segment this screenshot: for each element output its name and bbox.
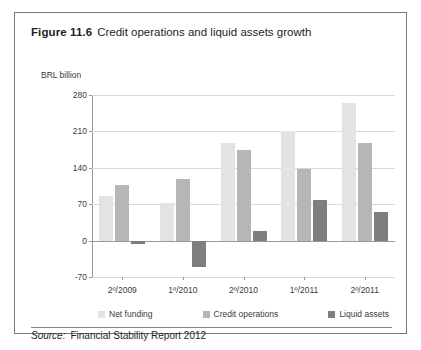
bar [131,241,145,244]
bar [374,212,388,241]
legend-item[interactable]: Net funding [98,309,152,319]
bar [237,150,251,241]
source-prefix: Source: [31,330,65,341]
y-axis-tick-label: 140 [73,163,87,173]
bar [221,143,235,241]
bar [358,143,372,240]
legend-swatch-icon [203,311,210,318]
x-axis-tick-marks [92,277,395,281]
bar [160,203,174,241]
x-axis-tick-mark [244,277,245,280]
figure-number: Figure 11.6 [31,26,92,38]
y-axis-tick-label: 0 [82,236,87,246]
source-line: Source:Financial Stability Report 2012 [31,330,206,341]
x-axis-tick-label: 2º/2010 [229,285,258,295]
legend-item-label: Liquid assets [339,309,389,319]
bar [342,103,356,241]
y-axis-tick-label: 280 [73,90,87,100]
chart-legend: Net fundingCredit operationsLiquid asset… [92,307,395,321]
bar [281,131,295,241]
x-axis-tick-labels: 2º/20091º/20102º/20101º/20112º/2011 [92,285,395,299]
bar [253,231,267,240]
legend-swatch-icon [98,311,105,318]
y-axis-tick-label: 70 [78,199,87,209]
x-axis-tick-label: 1º/2011 [290,285,318,295]
legend-swatch-icon [328,311,335,318]
y-axis-title: BRL billion [41,70,81,80]
y-axis-tick-label: -70 [75,272,87,282]
plot-area [92,95,395,277]
x-axis-tick-mark [304,277,305,280]
figure-title: Figure 11.6Credit operations and liquid … [31,26,311,38]
x-axis-tick-label: 2º/2011 [350,285,378,295]
y-axis-tick-label: 210 [73,126,87,136]
legend-item-label: Credit operations [214,309,279,319]
legend-item[interactable]: Liquid assets [328,309,389,319]
bar [99,196,113,241]
bar [192,241,206,267]
legend-item[interactable]: Credit operations [203,309,279,319]
bar [115,185,129,240]
source-divider [31,327,392,328]
source-text: Financial Stability Report 2012 [70,330,206,341]
x-axis-tick-mark [183,277,184,280]
gridline [92,95,395,96]
figure-container: Figure 11.6Credit operations and liquid … [14,12,407,334]
x-axis-tick-mark [365,277,366,280]
bar [313,200,327,241]
legend-item-label: Net funding [109,309,152,319]
bar [176,179,190,240]
x-axis-tick-label: 2º/2009 [108,285,137,295]
figure-caption: Credit operations and liquid assets grow… [97,26,311,38]
x-axis-tick-mark [122,277,123,280]
bar [297,169,311,240]
y-axis-tick-labels: 280210140700-70 [37,95,87,277]
x-axis-tick-label: 1º/2010 [168,285,197,295]
